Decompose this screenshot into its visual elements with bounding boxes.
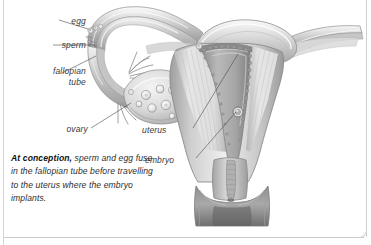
label-fallopian-tube: fallopian tube [4,66,86,88]
label-fallopian-tube-line2: tube [4,77,86,88]
label-ovary: ovary [30,124,88,135]
reproductive-system-illustration [0,0,371,245]
label-sperm: sperm [8,40,86,51]
caption: At conception, sperm and egg fuse in the… [11,152,157,206]
caption-lead: At conception, [11,153,72,163]
label-uterus: uterus [142,125,190,136]
leader-ovary [91,103,131,128]
label-fallopian-tube-line1: fallopian [4,66,86,77]
cervix [213,158,248,202]
label-egg: egg [20,16,86,27]
diagram-page: egg sperm fallopian tube ovary uterus em… [0,0,371,245]
